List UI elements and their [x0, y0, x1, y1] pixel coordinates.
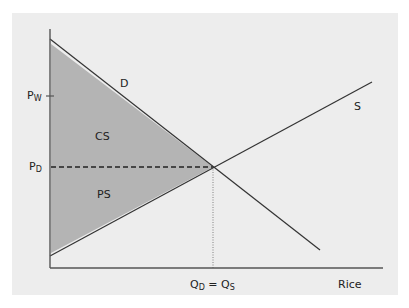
diagram-graphics — [0, 0, 409, 308]
world-price-sub: W — [34, 94, 42, 103]
diagram-stage: PW PD D S CS PS QD = QS Rice — [0, 0, 409, 308]
world-price-label: PW — [27, 90, 42, 103]
quantity-supplied-main: Q — [221, 278, 230, 291]
producer-surplus-label: PS — [97, 189, 111, 200]
surplus-area — [51, 44, 213, 253]
demand-label: D — [120, 78, 128, 89]
x-axis-label: Rice — [338, 279, 362, 290]
consumer-surplus-label: CS — [95, 131, 110, 142]
equals-sign: = — [205, 278, 221, 291]
supply-label: S — [354, 101, 361, 112]
domestic-price-sub: D — [36, 165, 42, 174]
world-price-main: P — [27, 89, 34, 102]
quantity-supplied-sub: S — [230, 283, 235, 292]
quantity-demanded-main: Q — [190, 278, 199, 291]
domestic-price-main: P — [29, 160, 36, 173]
domestic-price-label: PD — [29, 161, 42, 174]
equilibrium-quantity-label: QD = QS — [190, 279, 235, 292]
